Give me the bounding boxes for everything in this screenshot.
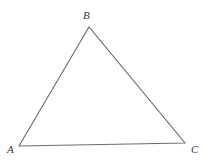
triangle-shape (0, 0, 209, 163)
vertex-label-c: C (191, 144, 198, 155)
triangle-outline (19, 27, 185, 146)
vertex-label-a: A (7, 144, 14, 155)
geometry-figure-canvas: A B C (0, 0, 209, 163)
vertex-label-b: B (83, 10, 90, 21)
